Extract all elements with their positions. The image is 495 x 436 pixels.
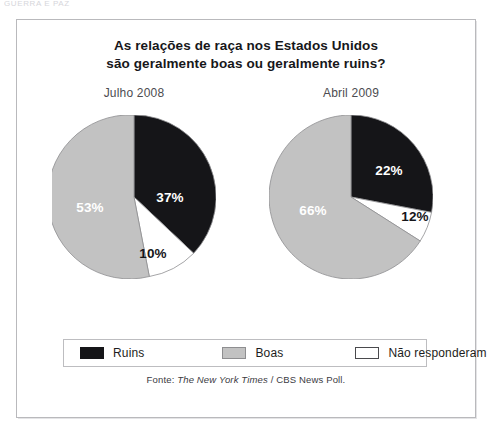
legend-swatch-nao-responderam	[355, 347, 379, 359]
legend-swatch-boas	[222, 347, 246, 359]
chart-legend: Ruins Boas Não responderam	[63, 339, 427, 367]
chart-title-line-2: são geralmente boas ou geralmente ruins?	[17, 55, 475, 73]
figure-page: GUERRA E PAZ As relações de raça nos Est…	[0, 0, 495, 436]
pie-data-label-boas: 53%	[76, 200, 104, 215]
chart-title-line-1: As relações de raça nos Estados Unidos	[17, 37, 475, 55]
source-note: Fonte: The New York Times / CBS News Pol…	[17, 374, 475, 385]
pie-chart-julho-2008: 37% 10% 53%	[52, 115, 216, 279]
pie-data-label-boas: 66%	[299, 203, 327, 218]
source-prefix: Fonte:	[147, 374, 175, 385]
figure-frame: As relações de raça nos Estados Unidos s…	[16, 19, 476, 418]
legend-label-ruins: Ruins	[113, 346, 144, 360]
legend-swatch-ruins	[80, 347, 104, 359]
pie-data-label-nao-responderam: 10%	[139, 246, 167, 261]
legend-label-nao-responderam: Não responderam	[388, 346, 486, 360]
pie-data-label-nao-responderam: 12%	[401, 209, 429, 224]
panel-label-julho-2008: Julho 2008	[54, 86, 214, 100]
pie-data-label-ruins: 37%	[156, 190, 184, 205]
legend-label-boas: Boas	[255, 346, 283, 360]
pie-data-label-ruins: 22%	[375, 163, 403, 178]
legend-item-nao-responderam: Não responderam	[355, 340, 486, 366]
chart-title: As relações de raça nos Estados Unidos s…	[17, 37, 475, 73]
source-suffix: / CBS News Poll.	[271, 374, 346, 385]
legend-item-boas: Boas	[222, 340, 283, 366]
legend-item-ruins: Ruins	[80, 340, 144, 366]
source-publication: The New York Times	[177, 374, 268, 385]
panel-label-abril-2009: Abril 2009	[271, 86, 431, 100]
page-running-header: GUERRA E PAZ	[4, 0, 154, 8]
pie-chart-abril-2009: 22% 12% 66%	[269, 115, 433, 279]
